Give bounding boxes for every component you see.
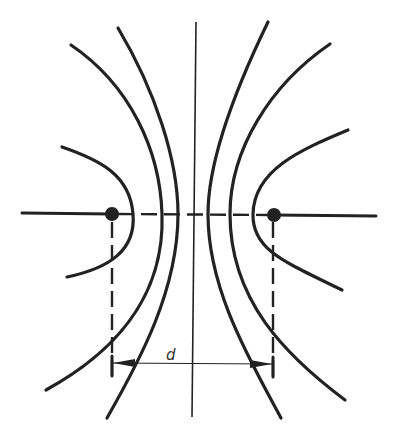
center-symmetry-line [192, 22, 196, 417]
dimension-arrow-left-icon [113, 359, 135, 367]
left-charge-dot [105, 207, 119, 221]
field-line-right-nested [253, 130, 348, 290]
field-line-diagram: d [0, 0, 393, 437]
right-charge-dot [267, 208, 281, 222]
axis-right-solid [274, 215, 376, 216]
field-line-right-middle [230, 44, 345, 400]
axis-dashed-between-charges [118, 214, 268, 215]
dimension-arrow-right-icon [250, 360, 272, 368]
field-line-left-nested [62, 147, 133, 277]
axis-left-solid [22, 213, 112, 214]
field-line-left-middle [46, 45, 162, 390]
dimension-label: d [166, 346, 176, 364]
